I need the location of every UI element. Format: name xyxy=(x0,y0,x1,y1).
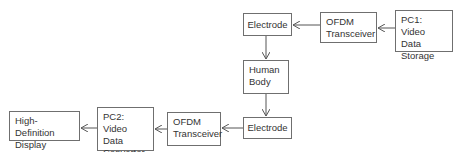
ofdm-rx-node: OFDM Transceiver xyxy=(167,112,221,146)
electrode-tx-node: Electrode xyxy=(243,13,292,36)
pc1-node: PC1: Video Data Storage xyxy=(395,10,453,52)
ofdm-tx-node: OFDM Transceiver xyxy=(320,12,377,43)
hd-display-node: High-Definition Display xyxy=(9,111,80,141)
pc2-node: PC2: Video Data Convertor xyxy=(97,107,154,151)
electrode-rx-node: Electrode xyxy=(243,117,292,139)
human-body-node: Human Body xyxy=(243,60,289,94)
